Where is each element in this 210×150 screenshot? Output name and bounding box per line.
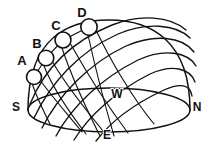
compass-label-west: W (111, 87, 123, 101)
sun-path-arc-3 (42, 38, 194, 128)
sun-marker-b (38, 50, 54, 66)
compass-label-east: E (103, 128, 111, 142)
compass-label-north: N (193, 100, 202, 114)
sun-marker-c (55, 32, 71, 48)
sun-marker-d (81, 19, 97, 35)
celestial-sphere-svg: A B C D S W N E (0, 0, 210, 150)
celestial-sphere-diagram: A B C D S W N E (0, 0, 210, 150)
converging-line-7 (88, 35, 114, 136)
sun-path-arc-5 (74, 68, 195, 140)
sun-label-d: D (77, 5, 86, 20)
sun-label-a: A (17, 53, 27, 68)
compass-label-south: S (12, 100, 20, 114)
sun-label-b: B (32, 36, 41, 51)
sun-label-c: C (51, 18, 61, 33)
sun-marker-a (27, 70, 42, 85)
